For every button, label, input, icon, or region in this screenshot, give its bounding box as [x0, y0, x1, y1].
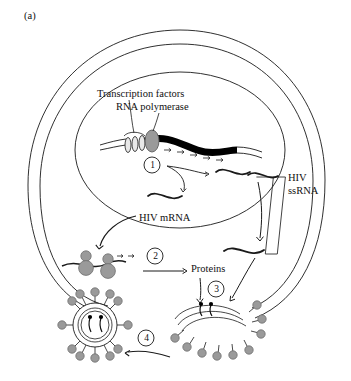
label-proteins: Proteins [191, 263, 225, 274]
ribosome-large-1 [79, 261, 94, 276]
transcription-factor-3 [139, 136, 145, 151]
virion-envelope [73, 303, 117, 347]
step-2-number: 2 [151, 251, 160, 261]
ribosome-large-2 [101, 264, 116, 279]
budding-virion-genome [199, 302, 213, 316]
arrow-virion-release [128, 351, 170, 357]
nascent-rna-1 [216, 170, 250, 175]
dna-strand-left-tail [100, 139, 126, 145]
panel-label: (a) [24, 10, 36, 21]
step-1-number: 1 [148, 160, 157, 170]
label-hiv-ssrna-line2: ssRNA [288, 185, 318, 196]
step-3-number: 3 [212, 284, 221, 294]
ribosome-group [79, 251, 116, 279]
label-rna-polymerase: RNA polymerase [116, 101, 189, 112]
mature-virion [58, 288, 132, 362]
leader-line-rna-polymerase [153, 113, 159, 131]
arrowhead-step1-down [181, 188, 187, 192]
arrow-step1-to-rna-right [167, 166, 207, 174]
ribosome-small-1 [81, 251, 91, 261]
transcription-factor-2 [132, 137, 138, 152]
arrow-ssrna-to-assembly [232, 258, 255, 298]
dna-strand-right-tail [237, 147, 262, 152]
label-transcription-factors: Transcription factors [97, 88, 184, 99]
mrna-template-strand [62, 261, 126, 267]
transcription-factor-1 [125, 138, 131, 153]
cytoplasmic-ssrna [224, 248, 264, 253]
step-4-number: 4 [142, 333, 151, 343]
arrow-proteins-to-assembly [200, 278, 201, 300]
transcription-factors-group [124, 132, 145, 152]
arrow-step1-to-rna-down [167, 166, 184, 190]
translation-direction-arrows [117, 254, 134, 257]
budding-virion-spikes [171, 301, 266, 360]
arrow-mrna-export [100, 216, 136, 246]
ribosome-small-2 [103, 254, 113, 264]
label-hiv-ssrna-line1: HIV [288, 172, 307, 183]
arrow-ssrna-export [258, 182, 262, 238]
arrowhead-virion-release [125, 351, 130, 356]
nascent-rna-2 [148, 194, 182, 199]
dna-strand-left-tail2 [100, 145, 126, 150]
dna-strand-right-tail2 [237, 153, 262, 158]
cell-membrane-outer [28, 30, 325, 318]
rna-polymerase [145, 130, 159, 152]
label-hiv-mrna: HIV mRNA [139, 212, 190, 223]
hiv-ssrna-bracket [248, 177, 285, 254]
